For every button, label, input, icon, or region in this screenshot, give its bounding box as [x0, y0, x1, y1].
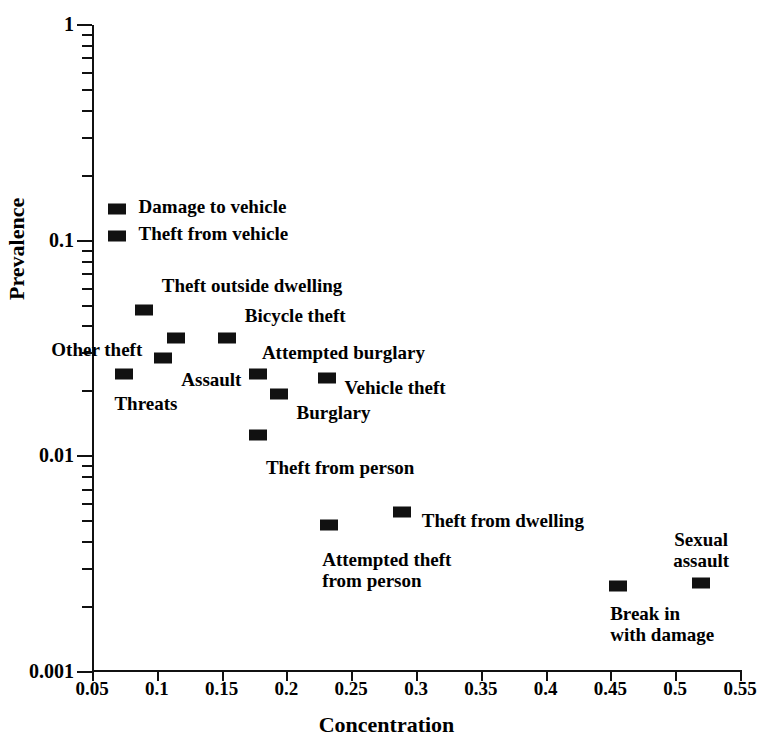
data-point-marker — [167, 332, 185, 343]
chart-canvas: Damage to vehicleTheft from vehicleTheft… — [0, 0, 773, 751]
y-tick-label: 0.001 — [29, 661, 74, 681]
y-tick-minor — [82, 606, 92, 608]
data-point-marker — [318, 372, 336, 383]
x-tick-label: 0.4 — [534, 679, 558, 698]
x-tick-label: 0.1 — [145, 679, 169, 698]
data-point-marker — [108, 204, 126, 215]
x-tick-label: 0.15 — [205, 679, 238, 698]
x-tick-label: 0.5 — [663, 679, 687, 698]
data-point-marker — [154, 353, 172, 364]
data-point-marker — [692, 577, 710, 588]
data-point-marker — [393, 507, 411, 518]
data-point-label: Sexual assault — [673, 529, 729, 571]
y-tick-minor — [82, 250, 92, 252]
y-tick-label: 0.1 — [49, 230, 74, 250]
y-tick-minor — [82, 72, 92, 74]
data-point-label: Break in with damage — [610, 603, 714, 645]
data-point-marker — [249, 429, 267, 440]
data-point-label: Burglary — [297, 402, 371, 423]
data-point-marker — [115, 368, 133, 379]
data-point-label: Theft from vehicle — [139, 223, 289, 244]
data-point-label: Vehicle theft — [345, 377, 446, 398]
x-tick-label: 0.35 — [464, 679, 497, 698]
data-point-label: Damage to vehicle — [139, 196, 287, 217]
y-tick-minor — [82, 273, 92, 275]
y-tick-minor — [82, 520, 92, 522]
y-axis-title: Prevalence — [4, 198, 30, 300]
y-tick-minor — [82, 465, 92, 467]
data-point-marker — [218, 332, 236, 343]
data-point-label: Other theft — [51, 339, 142, 360]
y-tick-minor — [82, 305, 92, 307]
y-tick-minor — [82, 541, 92, 543]
data-point-label: Assault — [181, 369, 241, 390]
data-point-label: Theft from person — [266, 457, 414, 478]
x-tick-label: 0.25 — [335, 679, 368, 698]
y-tick-minor — [82, 476, 92, 478]
y-tick-major — [77, 240, 92, 242]
y-tick-minor — [82, 261, 92, 263]
data-point-marker — [135, 305, 153, 316]
x-tick-label: 0.05 — [75, 679, 108, 698]
y-tick-major — [77, 24, 92, 26]
y-tick-major — [77, 671, 92, 673]
data-point-marker — [320, 520, 338, 531]
y-tick-minor — [82, 175, 92, 177]
data-point-marker — [249, 368, 267, 379]
x-tick-label: 0.55 — [723, 679, 756, 698]
x-tick-label: 0.3 — [404, 679, 428, 698]
data-point-marker — [270, 388, 288, 399]
y-tick-minor — [82, 325, 92, 327]
y-tick-minor — [82, 489, 92, 491]
data-point-marker — [609, 581, 627, 592]
data-point-label: Attempted theft from person — [322, 549, 451, 591]
plot-area: Damage to vehicleTheft from vehicleTheft… — [92, 25, 740, 672]
y-tick-minor — [82, 45, 92, 47]
y-tick-minor — [82, 89, 92, 91]
y-tick-minor — [82, 110, 92, 112]
data-point-label: Threats — [114, 393, 177, 414]
y-tick-major — [77, 455, 92, 457]
data-point-label: Theft from dwelling — [422, 510, 584, 531]
y-tick-minor — [82, 390, 92, 392]
data-point-label: Theft outside dwelling — [162, 275, 343, 296]
y-tick-minor — [82, 288, 92, 290]
data-point-marker — [108, 231, 126, 242]
x-tick-label: 0.2 — [275, 679, 299, 698]
data-point-label: Attempted burglary — [262, 342, 425, 363]
y-tick-minor — [82, 503, 92, 505]
y-tick-minor — [82, 34, 92, 36]
y-tick-minor — [82, 137, 92, 139]
y-tick-minor — [82, 57, 92, 59]
x-tick-label: 0.45 — [594, 679, 627, 698]
x-axis-title: Concentration — [0, 712, 773, 738]
data-point-label: Bicycle theft — [245, 305, 346, 326]
y-tick-label: 1 — [64, 14, 74, 34]
y-tick-label: 0.01 — [39, 445, 74, 465]
y-tick-minor — [82, 568, 92, 570]
